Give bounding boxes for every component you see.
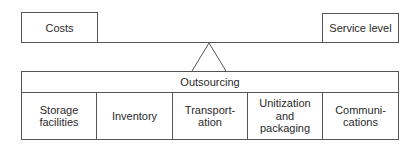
cell-communications: Communi- cations bbox=[323, 93, 398, 139]
fulcrum-triangle bbox=[192, 43, 226, 71]
outsourcing-label: Outsourcing bbox=[180, 76, 239, 88]
cell-inventory: Inventory bbox=[97, 93, 173, 139]
cell-label: Inventory bbox=[112, 110, 157, 123]
cell-label: Transport- ation bbox=[185, 104, 235, 129]
cell-label: Communi- cations bbox=[335, 104, 386, 129]
outsourcing-table: Outsourcing Storage facilities Inventory… bbox=[21, 71, 399, 140]
cell-unitization-packaging: Unitization and packaging bbox=[248, 93, 323, 139]
service-level-label: Service level bbox=[329, 22, 391, 34]
outsourcing-header: Outsourcing bbox=[22, 72, 398, 93]
outsourcing-cells: Storage facilities Inventory Transport- … bbox=[22, 93, 398, 139]
cell-label: Unitization and packaging bbox=[259, 97, 310, 135]
cell-storage-facilities: Storage facilities bbox=[22, 93, 97, 139]
costs-label: Costs bbox=[45, 22, 73, 34]
cell-label: Storage facilities bbox=[39, 104, 78, 129]
cell-transportation: Transport- ation bbox=[173, 93, 248, 139]
service-level-box: Service level bbox=[322, 13, 399, 43]
costs-box: Costs bbox=[21, 12, 98, 43]
